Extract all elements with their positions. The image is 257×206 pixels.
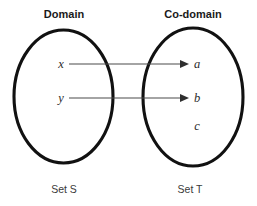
diagram-canvas: Domain Co-domain x y a b c Set S Set T — [0, 0, 257, 206]
arrowhead-icon — [180, 60, 189, 68]
codomain-element-b: b — [194, 91, 200, 105]
domain-header: Domain — [44, 8, 85, 20]
set-mapping-diagram: Domain Co-domain x y a b c Set S Set T — [0, 0, 257, 206]
arrowhead-icon — [180, 94, 189, 102]
codomain-element-c: c — [194, 119, 200, 133]
mapping-arrow-y-to-b — [69, 94, 189, 102]
codomain-element-a: a — [194, 57, 200, 71]
domain-element-y: y — [56, 91, 64, 105]
domain-element-x: x — [57, 57, 64, 71]
codomain-header: Co-domain — [164, 8, 222, 20]
mapping-arrow-x-to-a — [69, 60, 189, 68]
set-t-caption: Set T — [178, 183, 203, 195]
set-s-caption: Set S — [51, 183, 77, 195]
